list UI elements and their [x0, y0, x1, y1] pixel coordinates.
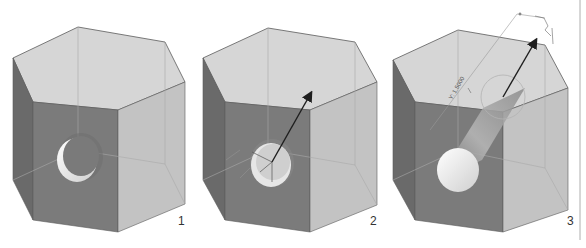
- panel-1: 1: [13, 27, 185, 232]
- right-face: [503, 88, 568, 232]
- cad-sequence-diagram: 1: [0, 0, 586, 248]
- panel-label-3: 3: [567, 214, 574, 228]
- panel-label-1: 1: [178, 214, 185, 228]
- panel-3: Y: 1.5000 3: [393, 13, 574, 232]
- panel-2: 2: [203, 28, 377, 232]
- cylinder-end-face: [437, 148, 479, 192]
- figure: 1: [0, 0, 586, 248]
- panel-label-2: 2: [370, 214, 377, 228]
